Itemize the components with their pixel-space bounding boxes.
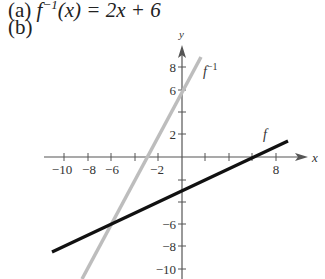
x-tick-labels: −10 −8 −6 −2 8: [52, 162, 279, 177]
f-label: f: [263, 127, 269, 142]
svg-text:−8: −8: [162, 239, 176, 254]
svg-text:8: 8: [273, 162, 280, 177]
f-line: [52, 141, 288, 252]
svg-text:2: 2: [170, 127, 177, 142]
f-inverse-label: f−1: [203, 61, 218, 79]
svg-text:−10: −10: [156, 262, 176, 277]
svg-text:−8: −8: [82, 162, 96, 177]
svg-text:−6: −6: [105, 162, 119, 177]
svg-text:8: 8: [170, 60, 177, 75]
graph: x y −10 −8 −6 −2 8 8 6 2 −6 −: [0, 0, 325, 279]
svg-text:−6: −6: [162, 217, 176, 232]
svg-text:−2: −2: [150, 162, 164, 177]
svg-text:6: 6: [170, 83, 177, 98]
svg-text:−10: −10: [52, 162, 72, 177]
x-axis-label: x: [311, 150, 318, 165]
y-axis-label: y: [178, 28, 184, 40]
